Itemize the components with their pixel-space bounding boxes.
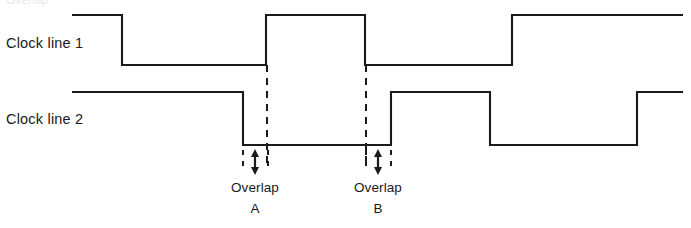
waveform-clock-line-2 [72,92,683,145]
overlap-a-identifier: A [215,201,295,216]
waveform-label-clock-line-1: Clock line 1 [6,35,83,51]
waveform-label-clock-line-2: Clock line 2 [6,111,83,127]
overlap-b-identifier: B [338,201,418,216]
overlap-b-arrow-icon [374,149,382,175]
overlap-a-arrow-icon [251,149,259,175]
timing-diagram-figure: Overlap Clock line 1 Clock line 2 [0,0,691,228]
overlap-a-label: Overlap [215,180,295,195]
waveform-clock-line-1 [72,15,683,65]
overlap-b-label: Overlap [338,180,418,195]
